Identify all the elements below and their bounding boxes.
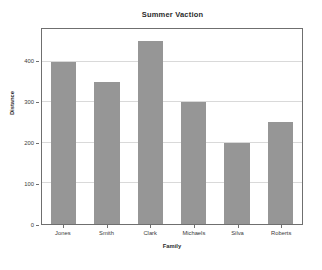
x-tick-mark [238,225,239,228]
x-tick-label: Jones [41,230,85,236]
x-tick-label: Smith [85,230,129,236]
bar[interactable] [268,122,293,224]
bar[interactable] [224,143,249,224]
x-tick-label: Michaels [172,230,216,236]
y-axis-ticks: 0100200300400 [0,28,39,225]
bar[interactable] [94,82,119,224]
bar-slot [215,29,258,224]
y-tick-label: 300 [24,99,34,105]
x-tick-label: Silva [216,230,260,236]
bar-slot [129,29,172,224]
x-tick-mark [150,225,151,228]
y-tick-mark [36,143,39,144]
bar[interactable] [138,41,163,224]
y-tick-label: 200 [24,140,34,146]
y-tick-mark [36,225,39,226]
y-tick-mark [36,184,39,185]
x-tick-slot: Clark [128,225,172,239]
x-tick-mark [194,225,195,228]
x-tick-slot: Silva [216,225,260,239]
x-tick-mark [63,225,64,228]
y-tick-label: 0 [31,222,34,228]
y-tick-label: 400 [24,58,34,64]
chart-title: Summer Vaction [41,10,304,19]
x-tick-slot: Smith [85,225,129,239]
x-tick-slot: Jones [41,225,85,239]
bar-slot [85,29,128,224]
x-axis-ticks: JonesSmithClarkMichaelsSilvaRoberts [41,225,303,239]
x-tick-mark [281,225,282,228]
y-tick-mark [36,61,39,62]
x-tick-slot: Roberts [259,225,303,239]
y-tick-label: 100 [24,181,34,187]
bar[interactable] [51,62,76,225]
x-tick-label: Roberts [259,230,303,236]
bar-slot [259,29,302,224]
x-tick-label: Clark [128,230,172,236]
x-tick-mark [107,225,108,228]
bar-series [42,29,302,224]
plot-area [41,28,303,225]
chart-figure: Summer Vaction Distance 0100200300400 Jo… [0,0,322,270]
bar[interactable] [181,102,206,224]
x-tick-slot: Michaels [172,225,216,239]
y-tick-mark [36,102,39,103]
bar-slot [172,29,215,224]
bar-slot [42,29,85,224]
x-axis-label: Family [41,243,303,249]
